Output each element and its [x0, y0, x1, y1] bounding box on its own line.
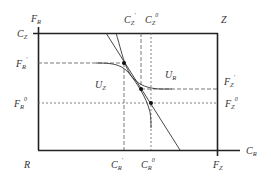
label-fr-zero: FR0 [13, 96, 27, 110]
label-fz-prime: FZ' [223, 74, 236, 88]
label-origin-r: R [23, 159, 30, 170]
label-ur: UR [165, 69, 176, 81]
point-c [149, 101, 153, 105]
point-b [139, 87, 143, 91]
label-fr-prime: FR' [15, 56, 28, 70]
label-uz: UZ [95, 79, 106, 91]
label-origin-z: Z [221, 14, 227, 25]
label-cz-zero: CZ0 [145, 12, 158, 26]
label-fz-axis: FZ [212, 159, 223, 171]
uz-curve [96, 63, 151, 128]
ur-curve [116, 33, 172, 89]
label-cr-zero: CR0 [141, 157, 155, 171]
label-cr-prime: CR' [111, 157, 124, 171]
label-fr-axis: FR [30, 13, 41, 25]
label-fz-zero: FZ0 [224, 96, 238, 110]
price-line [106, 33, 180, 150]
edgeworth-box-diagram: FR CZ FR' FR0 R CR' CR0 FZ CR CZ' CZ0 Z … [0, 0, 271, 181]
label-cz-axis: CZ [17, 28, 28, 40]
label-cz-prime: CZ' [124, 12, 136, 26]
label-cr-axis: CR [246, 145, 257, 157]
point-a [122, 61, 126, 65]
